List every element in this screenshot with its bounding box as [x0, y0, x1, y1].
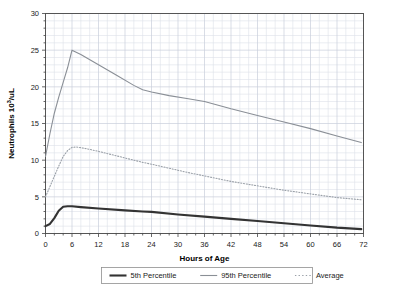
x-tick-label: 54 — [280, 240, 288, 249]
grid-major-layer — [46, 14, 364, 234]
x-tick-label: 30 — [174, 240, 182, 249]
series-line-5th-percentile — [46, 206, 362, 229]
y-tick-label: 20 — [31, 83, 39, 92]
x-tick-label: 66 — [333, 240, 341, 249]
legend: 5th Percentile95th PercentileAverage — [102, 268, 344, 284]
neutrophils-line-chart: 061218243036424854606672 051015202530 Ho… — [0, 0, 393, 293]
legend-label-average: Average — [316, 271, 344, 280]
y-tick-label: 10 — [31, 156, 39, 165]
y-tick-label: 15 — [31, 119, 39, 128]
x-tick-label: 12 — [94, 240, 102, 249]
x-tick-label: 24 — [147, 240, 155, 249]
y-tick-label: 25 — [31, 46, 39, 55]
x-tick-label: 42 — [227, 240, 235, 249]
chart-container: 061218243036424854606672 051015202530 Ho… — [0, 0, 393, 293]
series-line-average — [46, 147, 362, 200]
x-axis-title: Hours of Age — [180, 254, 230, 263]
legend-label-5th-percentile: 5th Percentile — [131, 271, 177, 280]
y-tick-label: 30 — [31, 9, 39, 18]
y-axis-title: Neutrophils 103/uL — [6, 88, 16, 159]
x-axis-tick-labels: 061218243036424854606672 — [43, 240, 367, 249]
series-line-95th-percentile — [46, 50, 362, 156]
x-tick-label: 18 — [121, 240, 129, 249]
x-axis-title-text: Hours of Age — [180, 254, 230, 263]
x-tick-label: 72 — [359, 240, 367, 249]
y-axis-title-text: Neutrophils 103/uL — [6, 88, 16, 159]
x-tick-label: 6 — [70, 240, 74, 249]
y-tick-label: 5 — [35, 193, 39, 202]
series-layer — [46, 50, 362, 229]
axis-ticks-layer — [42, 14, 364, 238]
legend-label-95th-percentile: 95th Percentile — [221, 271, 271, 280]
x-tick-label: 48 — [253, 240, 261, 249]
y-axis-tick-labels: 051015202530 — [31, 9, 39, 238]
x-tick-label: 60 — [306, 240, 314, 249]
y-tick-label: 0 — [35, 229, 39, 238]
y-axis-title-group: Neutrophils 103/uL — [6, 88, 16, 159]
x-tick-label: 36 — [200, 240, 208, 249]
x-tick-label: 0 — [43, 240, 47, 249]
